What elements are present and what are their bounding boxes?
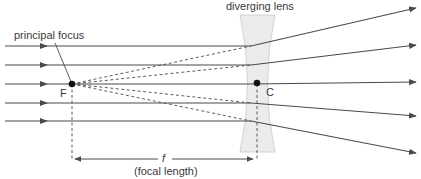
focal-guides	[72, 84, 257, 160]
principal-focus-leader	[55, 43, 72, 84]
center-point-label: C	[266, 87, 274, 98]
focus-point-label: F	[60, 88, 67, 99]
focal-symbol-label: f	[162, 153, 165, 164]
principal-focus-label: principal focus	[14, 30, 84, 41]
lens-label: diverging lens	[226, 1, 294, 12]
center-point-C	[254, 80, 261, 87]
focal-length-label: (focal length)	[134, 166, 198, 177]
focus-point-F	[69, 81, 76, 88]
refracted-rays	[251, 8, 416, 153]
